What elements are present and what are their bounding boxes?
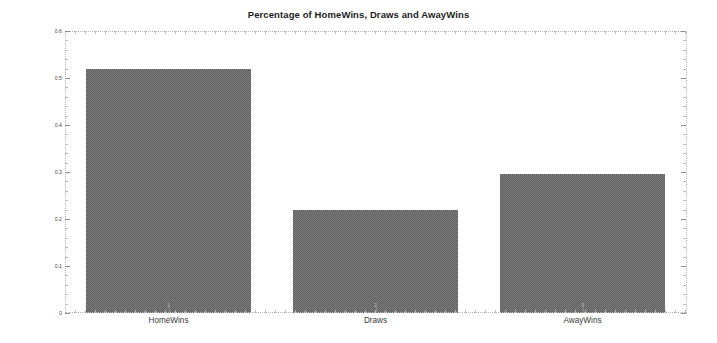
x-category-label-draws: Draws (364, 316, 387, 325)
x-minor-tick-top (535, 31, 536, 34)
y-tick-mark (65, 78, 70, 79)
x-minor-tick-top (215, 31, 216, 34)
x-minor-tick-bottom (415, 310, 416, 313)
x-tick-number: 1 (167, 303, 170, 308)
y-minor-tick-right (683, 200, 686, 201)
x-minor-tick-top (465, 31, 466, 34)
y-minor-tick (65, 69, 68, 70)
y-minor-tick-right (683, 116, 686, 117)
x-minor-tick-top (335, 31, 336, 34)
x-minor-tick-top (525, 31, 526, 34)
x-minor-tick-bottom (525, 310, 526, 313)
x-minor-tick-top (515, 31, 516, 34)
x-minor-tick-bottom (115, 310, 116, 313)
x-minor-tick-top (195, 31, 196, 34)
x-minor-tick-top (365, 31, 366, 34)
y-minor-tick-right (683, 247, 686, 248)
y-minor-tick (65, 106, 68, 107)
x-minor-tick-bottom (95, 310, 96, 313)
x-minor-tick-bottom (105, 310, 106, 313)
x-minor-tick-top (185, 31, 186, 34)
y-minor-tick (65, 257, 68, 258)
x-minor-tick-top (505, 31, 506, 34)
x-minor-tick-top (625, 31, 626, 34)
y-tick-mark (65, 172, 70, 173)
x-minor-tick-top (455, 31, 456, 34)
x-minor-tick-bottom (535, 310, 536, 313)
x-minor-tick-top (255, 31, 256, 34)
y-tick-mark-right (681, 219, 686, 220)
plot-frame-right (686, 31, 687, 313)
bar-draws (293, 210, 458, 313)
bar-homewins (86, 69, 251, 313)
x-minor-tick-top (315, 31, 316, 34)
x-minor-tick-top (205, 31, 206, 34)
x-minor-tick-top (295, 31, 296, 34)
x-minor-tick-top (405, 31, 406, 34)
y-minor-tick (65, 285, 68, 286)
y-minor-tick (65, 228, 68, 229)
x-minor-tick-bottom (155, 310, 156, 313)
y-minor-tick-right (683, 69, 686, 70)
plot-area (65, 31, 686, 313)
x-minor-tick-top (235, 31, 236, 34)
y-minor-tick-right (683, 106, 686, 107)
x-minor-tick-bottom (665, 310, 666, 313)
y-minor-tick-right (683, 87, 686, 88)
x-minor-tick-bottom (365, 310, 366, 313)
x-minor-tick-bottom (655, 310, 656, 313)
x-minor-tick-top (545, 31, 546, 34)
y-tick-label: 0.5 (55, 75, 62, 81)
x-minor-tick-bottom (195, 310, 196, 313)
y-minor-tick-right (683, 181, 686, 182)
x-minor-tick-bottom (375, 310, 376, 313)
y-minor-tick (65, 87, 68, 88)
x-minor-tick-bottom (615, 310, 616, 313)
x-minor-tick-bottom (265, 310, 266, 313)
x-minor-tick-top (285, 31, 286, 34)
y-tick-label: 0.1 (55, 263, 62, 269)
x-minor-tick-bottom (215, 310, 216, 313)
y-minor-tick-right (683, 304, 686, 305)
x-minor-tick-bottom (465, 310, 466, 313)
y-tick-mark (65, 266, 70, 267)
x-minor-tick-bottom (405, 310, 406, 313)
y-tick-label: 0.6 (55, 28, 62, 34)
x-minor-tick-top (105, 31, 106, 34)
y-tick-mark (65, 313, 70, 314)
x-tick-mark (169, 308, 170, 313)
y-minor-tick (65, 238, 68, 239)
x-minor-tick-bottom (315, 310, 316, 313)
y-minor-tick-right (683, 50, 686, 51)
x-minor-tick-top (155, 31, 156, 34)
y-tick-mark (65, 219, 70, 220)
x-minor-tick-bottom (685, 310, 686, 313)
x-minor-tick-bottom (125, 310, 126, 313)
x-minor-tick-top (355, 31, 356, 34)
x-minor-tick-top (675, 31, 676, 34)
x-minor-tick-bottom (445, 310, 446, 313)
y-tick-mark-right (681, 125, 686, 126)
x-minor-tick-top (145, 31, 146, 34)
y-minor-tick-right (683, 134, 686, 135)
y-minor-tick-right (683, 163, 686, 164)
y-minor-tick-right (683, 153, 686, 154)
x-minor-tick-top (605, 31, 606, 34)
x-minor-tick-top (655, 31, 656, 34)
y-minor-tick (65, 200, 68, 201)
x-minor-tick-top (475, 31, 476, 34)
x-minor-tick-top (425, 31, 426, 34)
y-minor-tick (65, 304, 68, 305)
x-category-label-homewins: HomeWins (148, 316, 188, 325)
y-minor-tick-right (683, 144, 686, 145)
x-minor-tick-bottom (645, 310, 646, 313)
x-minor-tick-bottom (475, 310, 476, 313)
x-minor-tick-top (165, 31, 166, 34)
x-minor-tick-bottom (575, 310, 576, 313)
y-tick-mark-right (681, 172, 686, 173)
y-minor-tick-right (683, 210, 686, 211)
x-minor-tick-bottom (235, 310, 236, 313)
bar-awaywins (500, 174, 665, 313)
x-tick-number: 2 (374, 303, 377, 308)
x-minor-tick-top (395, 31, 396, 34)
